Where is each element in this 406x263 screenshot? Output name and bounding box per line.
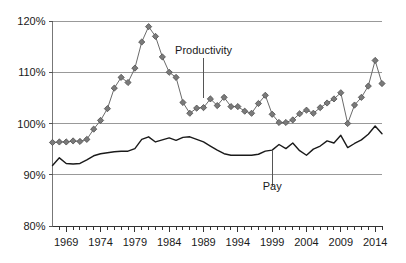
series-line-pay [53,126,383,165]
y-tick-label-80: 80% [23,220,45,232]
data-point [84,136,90,142]
annotation-label-productivity: Productivity [175,44,232,56]
data-point [235,103,241,109]
data-point [104,106,110,112]
data-point [283,119,289,125]
data-point [49,139,55,145]
series-markers-productivity [49,24,385,146]
annotation-label-pay: Pay [263,180,282,192]
y-tick-labels: 80%90%100%110%120% [17,15,45,232]
line-chart: ProductivityPay 80%90%100%110%120% 19691… [0,0,406,263]
x-tick-label-2004: 2004 [294,236,318,248]
x-tick-label-1984: 1984 [157,236,181,248]
data-point [159,54,165,60]
data-point [77,138,83,144]
x-tick-label-1994: 1994 [226,236,250,248]
series-annotations: ProductivityPay [175,44,282,192]
data-point [139,39,145,45]
x-tick-label-2009: 2009 [329,236,353,248]
data-point [111,85,117,91]
data-point [63,139,69,145]
data-point [242,108,248,114]
x-tick-label-1979: 1979 [123,236,147,248]
chart-container: ProductivityPay 80%90%100%110%120% 19691… [0,0,406,263]
x-tick-labels: 1969197419791984198919941999200420092014 [54,236,387,248]
y-tick-label-110: 110% [18,66,46,78]
data-point [152,33,158,39]
data-point [345,120,351,126]
x-tick-label-1989: 1989 [191,236,215,248]
data-point [303,107,309,113]
data-point [248,110,254,116]
y-tick-label-120: 120% [17,15,45,27]
data-point [365,83,371,89]
x-tick-label-1999: 1999 [260,236,284,248]
data-point [70,138,76,144]
data-point [56,139,62,145]
data-point [379,80,385,86]
y-tick-label-100: 100% [17,118,45,130]
data-point [146,24,152,30]
x-tick-label-1969: 1969 [54,236,78,248]
x-tick-label-2014: 2014 [363,236,387,248]
y-tick-label-90: 90% [23,169,45,181]
data-point [180,99,186,105]
data-point [324,100,330,106]
data-point [372,57,378,63]
data-point [132,65,138,71]
x-tick-label-1974: 1974 [88,236,112,248]
